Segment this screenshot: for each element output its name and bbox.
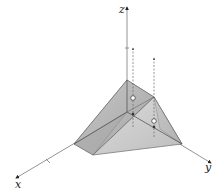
diagram-canvas: z x y	[0, 0, 220, 195]
open-point-2	[152, 119, 157, 124]
filled-point-2	[153, 126, 156, 129]
open-point-1	[131, 96, 136, 101]
x-axis-label: x	[15, 178, 22, 191]
y-axis-label: y	[204, 161, 212, 174]
solid-region	[74, 80, 182, 155]
x-tick	[46, 159, 50, 163]
z-axis-label: z	[118, 3, 125, 16]
filled-point-1	[132, 113, 135, 116]
